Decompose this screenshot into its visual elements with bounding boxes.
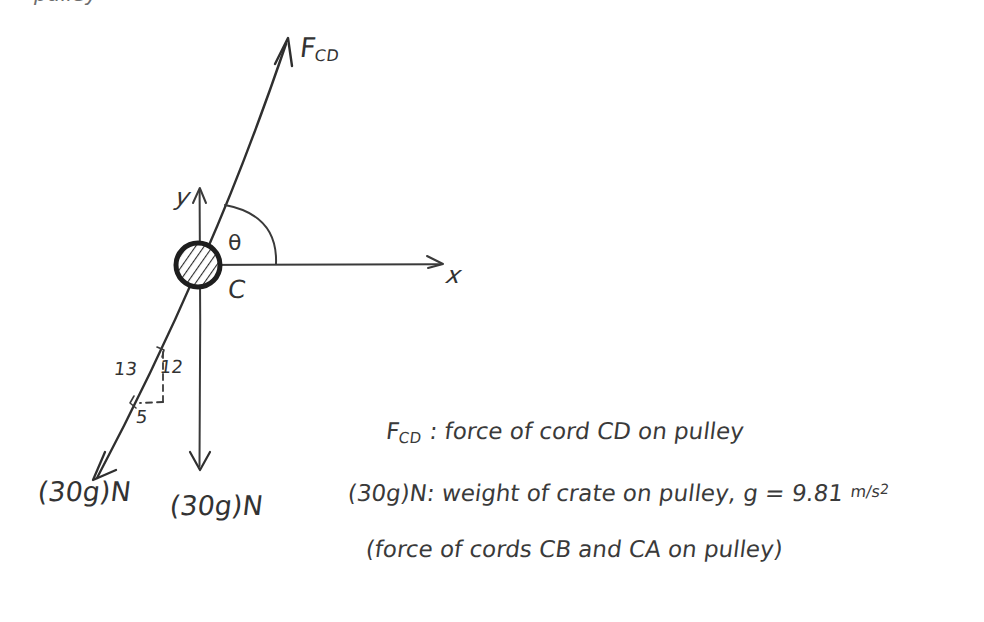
weight-left-label: (30g)N [36, 478, 132, 505]
legend-weight-text: (30g)N: weight of crate on pulley, g = 9… [346, 480, 852, 506]
y-axis [193, 188, 206, 466]
triangle-vertical-label: 12 [159, 358, 184, 376]
legend-fcd-subscript: CD [397, 429, 422, 447]
x-axis [198, 256, 443, 268]
diagram-canvas [0, 0, 984, 622]
triangle-horizontal-label: 5 [135, 408, 149, 426]
legend-line-weight: (30g)N: weight of crate on pulley, g = 9… [346, 480, 890, 506]
cut-off-top-text: pulley [34, 0, 98, 6]
legend-fcd-text: : force of cord CD on pulley [421, 418, 746, 444]
weight-down-label: (30g)N [168, 492, 264, 519]
origin-label: C [226, 277, 247, 302]
legend-line-cords: (force of cords CB and CA on pulley) [364, 536, 784, 562]
weight-left-vector [93, 266, 199, 480]
fcd-vector-label: FCD [298, 34, 342, 64]
triangle-hypotenuse-label: 13 [113, 360, 138, 378]
pulley-icon [176, 243, 220, 287]
fcd-label-sub: CD [314, 46, 341, 65]
fcd-vector [199, 38, 292, 268]
angle-label: θ [228, 232, 241, 254]
legend-line-fcd: FCD : force of cord CD on pulley [384, 418, 745, 447]
